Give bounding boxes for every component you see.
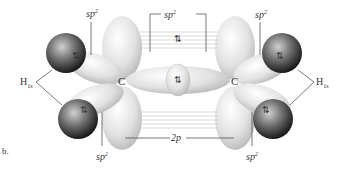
orbital-diagram: [0, 0, 337, 169]
hydrogen-top-left: [46, 33, 86, 73]
label-sp2-top-right: sp2: [255, 9, 267, 20]
label-h1s-left: H1s: [20, 77, 33, 89]
label-sp2-top-left: sp2: [86, 8, 98, 19]
hydrogen-bottom-right: [253, 99, 293, 139]
label-2p: 2p: [171, 133, 181, 143]
electron-pair-pi-top: ⇅: [174, 35, 182, 44]
hydrogen-bottom-left: [58, 99, 98, 139]
electron-pair-h-bottom-right: ⇅: [262, 106, 270, 115]
electron-pair-h-bottom-left: ⇅: [80, 106, 88, 115]
electron-pair-h-top-left: ⇅: [72, 52, 80, 61]
label-sp2-top-center: sp2: [164, 9, 176, 20]
electron-pair-sigma: ⇅: [174, 76, 182, 85]
label-carbon-left: C: [118, 76, 125, 87]
electron-pair-h-top-right: ⇅: [276, 52, 284, 61]
label-sp2-bottom-right: sp2: [246, 151, 258, 162]
panel-letter: b.: [2, 147, 9, 156]
label-h1s-right: H1s: [316, 77, 329, 89]
label-carbon-right: C: [231, 76, 238, 87]
label-sp2-bottom-left: sp2: [96, 151, 108, 162]
